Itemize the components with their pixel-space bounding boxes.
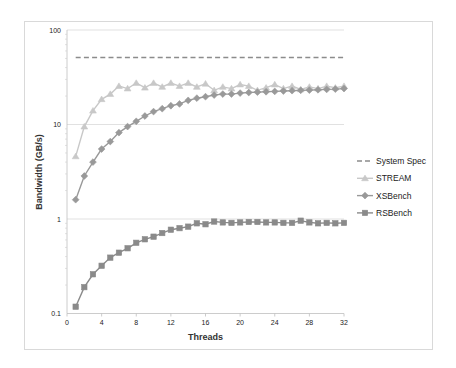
legend: System SpecSTREAMXSBenchRSBench <box>357 156 427 218</box>
x-axis-ticks: 048121620242832 <box>65 314 348 326</box>
legend-label: XSBench <box>376 191 412 201</box>
diamond-marker <box>271 88 278 95</box>
triangle-marker <box>98 96 105 102</box>
square-marker <box>298 218 303 223</box>
diamond-marker <box>219 91 226 98</box>
legend-item-xsbench: XSBench <box>357 191 412 201</box>
diamond-marker <box>193 95 200 102</box>
diamond-marker <box>167 102 174 109</box>
triangle-marker <box>219 84 226 90</box>
square-marker <box>160 230 165 235</box>
square-marker <box>185 224 190 229</box>
square-marker <box>237 220 242 225</box>
triangle-marker <box>142 85 149 91</box>
x-tick-label: 4 <box>100 319 104 326</box>
x-tick-label: 0 <box>65 319 69 326</box>
diamond-marker <box>159 105 166 112</box>
square-marker <box>90 272 95 277</box>
square-marker <box>99 263 104 268</box>
square-marker <box>108 255 113 260</box>
square-marker <box>203 222 208 227</box>
series-line <box>76 89 344 200</box>
diamond-marker <box>142 113 149 120</box>
square-marker <box>116 250 121 255</box>
y-tick-label: 1 <box>57 216 61 223</box>
y-tick-label: 0.1 <box>51 310 61 317</box>
series-line <box>76 221 344 307</box>
square-marker <box>255 219 260 224</box>
square-marker <box>82 284 87 289</box>
diamond-marker <box>150 108 157 115</box>
square-marker <box>168 227 173 232</box>
diamond-marker <box>81 173 88 180</box>
y-tick-label: 10 <box>53 121 61 128</box>
square-marker <box>281 220 286 225</box>
series-xsbench <box>72 85 347 203</box>
diamond-marker <box>280 88 287 95</box>
diamond-marker <box>72 196 79 203</box>
square-marker <box>333 221 338 226</box>
x-tick-label: 8 <box>134 319 138 326</box>
x-tick-label: 12 <box>167 319 175 326</box>
triangle-marker <box>150 80 157 86</box>
y-tick-label: 100 <box>49 27 61 34</box>
series-line <box>76 83 344 156</box>
square-marker <box>134 240 139 245</box>
square-marker <box>125 246 130 251</box>
diamond-marker <box>237 90 244 97</box>
x-axis-title: Threads <box>188 332 223 342</box>
legend-square-icon <box>362 210 367 215</box>
series-rsbench <box>73 218 347 309</box>
square-marker <box>246 219 251 224</box>
legend-label: STREAM <box>376 173 411 183</box>
square-marker <box>272 220 277 225</box>
diamond-marker <box>133 118 140 125</box>
triangle-marker <box>72 153 79 159</box>
square-marker <box>194 221 199 226</box>
triangle-marker <box>202 81 209 87</box>
diamond-marker <box>228 91 235 98</box>
legend-item-stream: STREAM <box>357 173 411 183</box>
legend-label: RSBench <box>376 208 412 218</box>
square-marker <box>307 220 312 225</box>
legend-item-system-spec: System Spec <box>357 156 427 166</box>
diamond-marker <box>176 101 183 108</box>
triangle-marker <box>133 80 140 86</box>
square-marker <box>142 237 147 242</box>
diamond-marker <box>202 93 209 100</box>
square-marker <box>177 225 182 230</box>
x-tick-label: 16 <box>202 319 210 326</box>
square-marker <box>151 234 156 239</box>
x-tick-label: 20 <box>236 319 244 326</box>
x-tick-label: 32 <box>340 319 348 326</box>
square-marker <box>324 220 329 225</box>
triangle-marker <box>271 81 278 87</box>
legend-label: System Spec <box>376 156 427 166</box>
square-marker <box>229 220 234 225</box>
triangle-marker <box>167 80 174 86</box>
triangle-marker <box>116 83 123 89</box>
legend-diamond-icon <box>362 192 369 199</box>
square-marker <box>263 220 268 225</box>
square-marker <box>315 221 320 226</box>
square-marker <box>211 219 216 224</box>
y-axis-title: Bandwidth (GB/s) <box>34 134 44 210</box>
square-marker <box>289 220 294 225</box>
legend-item-rsbench: RSBench <box>357 208 412 218</box>
plot-series <box>72 58 347 310</box>
diamond-marker <box>245 89 252 96</box>
series-stream <box>72 80 347 159</box>
x-tick-label: 24 <box>271 319 279 326</box>
triangle-marker <box>237 81 244 87</box>
square-marker <box>73 304 78 309</box>
axes <box>65 30 344 314</box>
diamond-marker <box>185 97 192 104</box>
triangle-marker <box>185 80 192 86</box>
line-chart: 0.1110100 048121620242832 Threads Bandwi… <box>0 0 456 368</box>
gridlines <box>67 30 344 219</box>
x-tick-label: 28 <box>305 319 313 326</box>
square-marker <box>341 220 346 225</box>
square-marker <box>220 220 225 225</box>
y-axis-ticks: 0.1110100 <box>49 27 61 318</box>
